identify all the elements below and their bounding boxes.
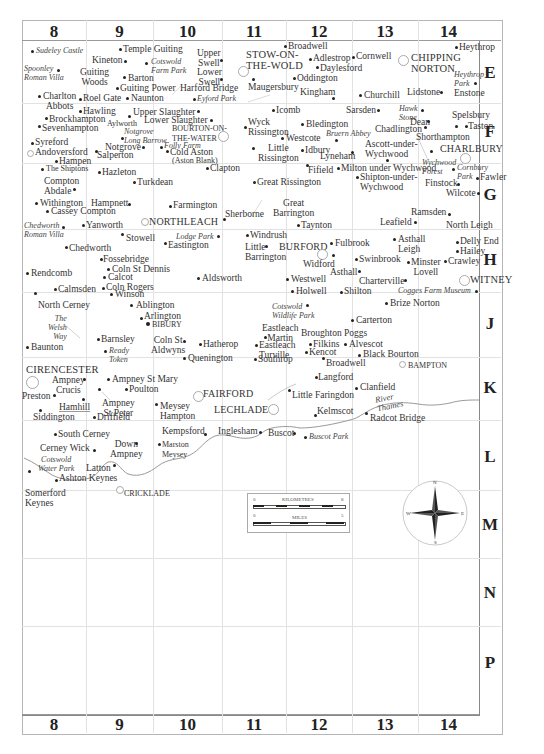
place-label: Sudeley Castle bbox=[36, 46, 83, 55]
place-label: Maugersbury bbox=[248, 82, 299, 92]
place-label: LECHLADE bbox=[214, 404, 268, 415]
place-marker bbox=[304, 436, 307, 439]
place-label: Latton bbox=[86, 463, 111, 473]
place-marker bbox=[254, 358, 257, 361]
place-marker bbox=[38, 95, 41, 98]
place-marker bbox=[97, 338, 100, 341]
place-marker bbox=[424, 126, 427, 129]
place-label: Enstone bbox=[454, 88, 485, 98]
place-label: Little Rissington bbox=[258, 143, 299, 163]
place-label: Black Bourton bbox=[363, 349, 419, 359]
place-marker bbox=[297, 224, 300, 227]
place-label: Ampney Crucis bbox=[52, 375, 85, 395]
place-marker bbox=[475, 290, 478, 293]
scale-mi-label: MILES bbox=[292, 515, 307, 520]
place-marker bbox=[293, 432, 296, 435]
place-marker bbox=[253, 181, 256, 184]
place-marker bbox=[34, 292, 37, 295]
col-header-bottom: 10 bbox=[153, 715, 222, 735]
place-label: Ramsden bbox=[411, 207, 446, 217]
place-marker bbox=[28, 470, 31, 473]
place-marker bbox=[98, 388, 101, 391]
place-label: Sevenhampton bbox=[42, 123, 98, 133]
place-label: Leafield bbox=[380, 217, 412, 227]
place-marker bbox=[199, 343, 202, 346]
place-marker bbox=[35, 202, 38, 205]
place-marker bbox=[407, 261, 410, 264]
place-marker bbox=[183, 340, 186, 343]
place-marker bbox=[393, 238, 396, 241]
place-marker bbox=[474, 82, 477, 85]
place-label: Carterton bbox=[356, 315, 392, 325]
place-label: Preston bbox=[22, 391, 51, 401]
place-marker bbox=[309, 58, 312, 61]
place-marker bbox=[210, 119, 213, 122]
scale-km-segment bbox=[276, 505, 287, 507]
place-label: CHARLBURY bbox=[440, 143, 503, 154]
town-marker bbox=[26, 376, 39, 389]
place-label: Quenington bbox=[188, 353, 233, 363]
place-marker bbox=[93, 449, 96, 452]
place-marker bbox=[116, 87, 119, 90]
place-marker bbox=[456, 250, 459, 253]
place-marker bbox=[31, 142, 34, 145]
place-marker bbox=[53, 394, 56, 397]
place-label: Hailey bbox=[460, 246, 485, 256]
place-label: Heythrop bbox=[459, 42, 495, 52]
place-marker bbox=[113, 464, 116, 467]
place-marker bbox=[358, 270, 361, 273]
place-marker bbox=[332, 97, 335, 100]
scale-km-label: KILOMETRES bbox=[282, 497, 314, 502]
place-label: Hamhill bbox=[59, 402, 90, 412]
town-marker bbox=[27, 150, 34, 157]
place-marker bbox=[355, 258, 358, 261]
place-marker bbox=[301, 149, 304, 152]
col-header-top: 12 bbox=[286, 22, 352, 42]
place-label: Little Faringdon bbox=[292, 390, 354, 400]
place-label: Westwell bbox=[291, 274, 326, 284]
place-marker bbox=[45, 117, 48, 120]
place-marker bbox=[103, 276, 106, 279]
place-label: Fulbrook bbox=[335, 238, 370, 248]
town-marker bbox=[268, 404, 279, 415]
place-label: The Welsh Way bbox=[48, 314, 67, 341]
place-label: Ascott-under- Wychwood bbox=[365, 139, 418, 159]
place-label: Windrush bbox=[250, 230, 287, 240]
place-marker bbox=[54, 288, 57, 291]
place-marker bbox=[281, 137, 284, 140]
place-label: Sherborne bbox=[225, 209, 264, 219]
place-label: Daylesford bbox=[320, 63, 362, 73]
place-marker bbox=[421, 109, 424, 112]
place-label: Cornwell bbox=[356, 51, 391, 61]
place-label: Aldsworth bbox=[202, 273, 242, 283]
place-label: Coln St Aldwyns bbox=[151, 335, 185, 355]
place-marker bbox=[204, 433, 207, 436]
place-label: Broughton Poggs bbox=[301, 328, 367, 338]
place-marker bbox=[55, 160, 58, 163]
place-label: Chadlington bbox=[375, 124, 422, 134]
place-marker bbox=[322, 357, 325, 360]
grid-row-line bbox=[22, 420, 501, 421]
place-label: Turkdean bbox=[137, 177, 173, 187]
place-label: Roel Gate bbox=[83, 93, 121, 103]
place-marker bbox=[358, 354, 361, 357]
place-marker bbox=[110, 293, 113, 296]
place-marker bbox=[344, 343, 347, 346]
place-marker bbox=[121, 137, 124, 140]
col-header-top: 10 bbox=[153, 22, 222, 42]
place-marker bbox=[102, 287, 105, 290]
col-header-top: 11 bbox=[222, 22, 286, 42]
compass-west-label: W bbox=[406, 511, 411, 516]
place-label: Shipton-under- Wychwood bbox=[360, 172, 417, 192]
place-label: Broadwell bbox=[326, 358, 366, 368]
place-marker bbox=[217, 235, 220, 238]
place-label: Harford Bridge bbox=[180, 83, 238, 93]
col-header-bottom: 11 bbox=[222, 715, 286, 735]
place-marker bbox=[57, 69, 60, 72]
place-marker bbox=[404, 279, 407, 282]
place-marker bbox=[119, 48, 122, 51]
place-marker bbox=[332, 254, 335, 257]
place-marker bbox=[93, 416, 96, 419]
row-header: K bbox=[479, 378, 501, 398]
place-label: Guiting Woods bbox=[80, 67, 109, 87]
